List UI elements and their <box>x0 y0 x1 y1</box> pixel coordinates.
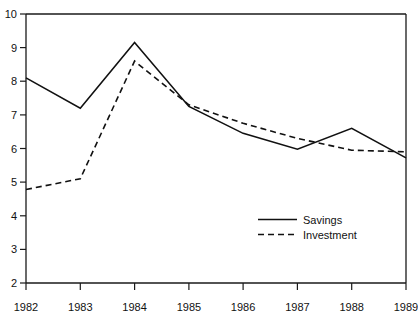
legend-label-savings: Savings <box>303 214 343 226</box>
y-tick-label-2: 2 <box>11 277 17 289</box>
y-tick-label-4: 4 <box>11 210 17 222</box>
y-tick-label-7: 7 <box>11 109 17 121</box>
x-tick-label-1986: 1986 <box>231 301 255 313</box>
y-tick-label-6: 6 <box>11 143 17 155</box>
x-tick-label-1988: 1988 <box>339 301 363 313</box>
line-chart: 10 9 8 7 6 5 4 3 2 1982 1983 1984 1985 1… <box>0 0 418 324</box>
x-tick-label-1984: 1984 <box>122 301 146 313</box>
x-tick-label-1987: 1987 <box>285 301 309 313</box>
x-tick-label-1983: 1983 <box>68 301 92 313</box>
x-tick-label-1982: 1982 <box>14 301 38 313</box>
chart-background <box>0 0 418 324</box>
y-tick-label-3: 3 <box>11 243 17 255</box>
y-tick-label-8: 8 <box>11 75 17 87</box>
chart-canvas: 10 9 8 7 6 5 4 3 2 1982 1983 1984 1985 1… <box>0 0 418 324</box>
y-tick-label-10: 10 <box>5 8 17 20</box>
legend-label-investment: Investment <box>303 229 357 241</box>
y-tick-label-9: 9 <box>11 42 17 54</box>
x-tick-label-1989: 1989 <box>394 301 418 313</box>
y-tick-label-5: 5 <box>11 176 17 188</box>
x-tick-label-1985: 1985 <box>177 301 201 313</box>
